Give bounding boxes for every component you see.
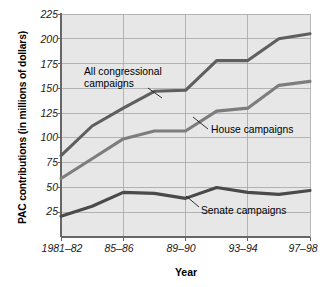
x-tick-label-1981-82: 1981–82 xyxy=(38,242,86,254)
series-label-senate: Senate campaigns xyxy=(201,205,286,217)
x-axis-title: Year xyxy=(61,266,311,278)
x-tick-label-89-90: 89–90 xyxy=(157,242,205,254)
y-axis-title: PAC contributions (in millions of dollar… xyxy=(17,23,28,233)
pac-contributions-line-chart: PAC contributions (in millions of dollar… xyxy=(0,0,333,287)
series-label-house: House campaigns xyxy=(211,124,293,136)
y-tick-label-125: 125 xyxy=(28,107,58,119)
y-tick-label-150: 150 xyxy=(28,82,58,94)
series-label-all-congressional-line2: campaigns xyxy=(84,78,162,90)
x-tick-label-93-94: 93–94 xyxy=(219,242,267,254)
x-tick-label-85-86: 85–86 xyxy=(95,242,143,254)
y-tick-label-175: 175 xyxy=(28,58,58,70)
series-label-all-congressional: All congressional campaigns xyxy=(84,66,162,89)
y-tick-label-225: 225 xyxy=(28,8,58,20)
y-tick-label-50: 50 xyxy=(28,181,58,193)
y-tick-label-200: 200 xyxy=(28,33,58,45)
y-tick-label-100: 100 xyxy=(28,131,58,143)
y-tick-label-25: 25 xyxy=(28,205,58,217)
y-tick-label-75: 75 xyxy=(28,156,58,168)
series-label-all-congressional-line1: All congressional xyxy=(84,66,162,78)
x-tick-label-97-98: 97–98 xyxy=(279,242,327,254)
